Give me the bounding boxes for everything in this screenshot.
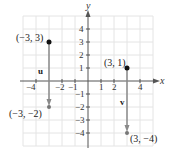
y-axis-label: y bbox=[86, 1, 90, 11]
y-tick-neg2: −2 bbox=[75, 103, 85, 112]
x-axis-label: x bbox=[160, 76, 164, 86]
point-label-u-start: (−3, 3) bbox=[16, 33, 43, 43]
vector-u bbox=[47, 40, 52, 110]
point-label-u-end: (−3, −2) bbox=[9, 109, 42, 119]
x-tick-1: 1 bbox=[99, 83, 104, 92]
point-label-v-end: (3, −4) bbox=[130, 134, 157, 144]
x-tick-neg4: −4 bbox=[26, 83, 36, 92]
x-tick-neg2: −2 bbox=[55, 83, 65, 92]
x-tick-2: 2 bbox=[112, 83, 117, 92]
y-tick-1: 1 bbox=[79, 64, 84, 73]
y-tick-2: 2 bbox=[79, 51, 84, 60]
x-tick-4: 4 bbox=[138, 83, 143, 92]
y-tick-4: 4 bbox=[79, 25, 84, 34]
point-label-v-start: (3, 1) bbox=[104, 58, 126, 68]
y-tick-neg4: −4 bbox=[75, 129, 85, 138]
coordinate-plane bbox=[0, 0, 172, 155]
y-tick-3: 3 bbox=[79, 38, 84, 47]
y-tick-neg1: −1 bbox=[75, 90, 85, 99]
axes bbox=[20, 10, 160, 148]
vector-label-u: u bbox=[38, 67, 43, 76]
y-tick-neg3: −3 bbox=[75, 116, 85, 125]
vector-label-v: v bbox=[120, 98, 125, 107]
vector-v bbox=[125, 66, 130, 136]
